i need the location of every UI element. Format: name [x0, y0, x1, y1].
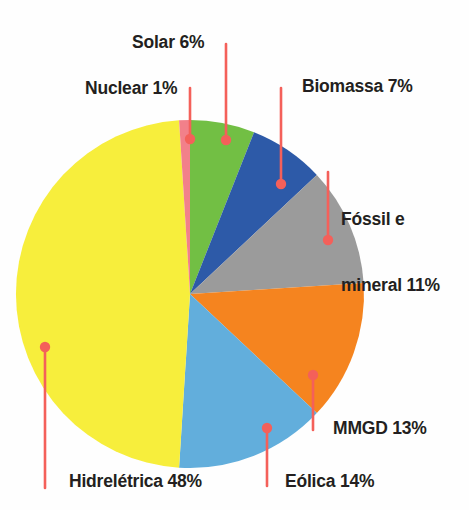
slice-label-mmgd: MMGD 13%	[333, 418, 427, 439]
slice-label-nuclear: Nuclear 1%	[85, 78, 177, 99]
leader-dot-solar	[221, 135, 231, 145]
leader-dot-hidrel-trica	[40, 342, 50, 352]
pie-slice-hidrel-trica	[16, 120, 190, 467]
slice-label-eolica: Eólica 14%	[285, 471, 374, 492]
slice-label-fossil-line1: Fóssil e	[341, 208, 440, 230]
slice-label-hidreletrica: Hidrelétrica 48%	[69, 471, 202, 492]
slice-label-fossil-line2: mineral 11%	[341, 274, 440, 296]
slice-label-solar: Solar 6%	[132, 32, 204, 53]
leader-dot-f-ssil-e-mineral	[323, 235, 333, 245]
slice-label-fossil-mineral: Fóssil e mineral 11%	[341, 164, 440, 340]
pie-chart-figure: Solar 6% Nuclear 1% Biomassa 7% Fóssil e…	[0, 0, 469, 510]
leader-dot-nuclear	[185, 134, 195, 144]
leader-dot-e-lica	[262, 423, 272, 433]
leader-dot-biomassa	[276, 179, 286, 189]
leader-dot-mmgd	[308, 370, 318, 380]
slice-label-biomassa: Biomassa 7%	[302, 76, 413, 97]
